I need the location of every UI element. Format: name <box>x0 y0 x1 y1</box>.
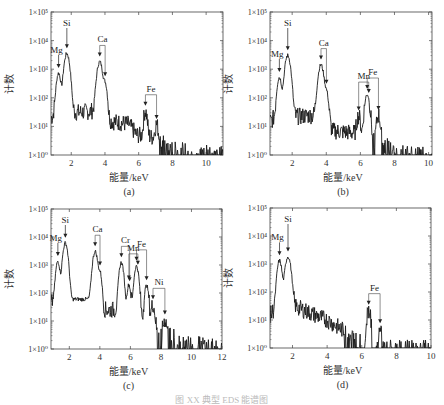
y-axis-label: 计数 <box>222 74 234 94</box>
svg-text:Si: Si <box>63 18 71 28</box>
x-tick-label: 6 <box>360 351 365 361</box>
svg-text:Ca: Ca <box>319 38 329 48</box>
peak-annotation-si: Si <box>284 214 292 251</box>
arrow-icon <box>286 46 290 50</box>
x-axis-label: 能量/keV <box>109 365 149 377</box>
y-tick-label: 1×10⁴ <box>29 233 49 242</box>
peak-annotation-si: Si <box>63 18 71 48</box>
arrow-icon <box>367 301 371 305</box>
svg-text:Fe: Fe <box>368 67 377 77</box>
svg-text:Mg: Mg <box>50 233 63 243</box>
y-tick-label: 1×10⁵ <box>248 8 268 17</box>
svg-text:Ca: Ca <box>93 224 103 234</box>
arrow-icon <box>319 56 323 60</box>
x-axis-label: 能量/keV <box>323 171 363 183</box>
arrow-icon <box>143 102 147 106</box>
arrow-icon <box>278 251 282 255</box>
spectrum-line <box>270 54 432 155</box>
svg-text:Fe: Fe <box>146 84 155 94</box>
arrow-icon <box>56 252 60 256</box>
arrow-icon <box>145 276 149 280</box>
svg-text:Si: Si <box>62 215 70 225</box>
y-tick-label: 1×10⁵ <box>248 204 268 213</box>
y-tick-label: 1×10² <box>29 289 49 298</box>
svg-text:Fe: Fe <box>370 283 379 293</box>
arrow-icon <box>367 89 371 93</box>
svg-text:Mg: Mg <box>271 232 284 242</box>
y-tick-label: 1×10⁰ <box>28 151 48 160</box>
y-tick-label: 1×10³ <box>248 260 268 269</box>
y-tick-label: 1×10⁰ <box>247 151 267 160</box>
chart-panel-a: 1×10⁰1×10¹1×10²1×10³1×10⁴1×10⁵246810能量/k… <box>3 8 223 198</box>
arrow-icon <box>57 64 61 68</box>
y-tick-label: 1×10³ <box>29 261 49 270</box>
y-tick-label: 1×10⁴ <box>248 37 268 46</box>
arrow-icon <box>378 319 382 323</box>
x-tick-label: 2 <box>67 352 72 362</box>
y-tick-label: 1×10¹ <box>248 316 268 325</box>
x-tick-label: 4 <box>98 352 103 362</box>
arrow-icon <box>277 68 281 72</box>
peak-annotation-fe: Fe <box>365 67 380 110</box>
svg-text:Ca: Ca <box>97 34 107 44</box>
peak-annotation-si: Si <box>62 215 70 238</box>
x-axis-label: 能量/keV <box>109 171 149 183</box>
panel-label: (c) <box>123 380 134 392</box>
spectrum-line <box>51 53 223 156</box>
chart-panel-c: 1×10⁰1×10¹1×10²1×10³1×10⁴1×10⁵24681012能量… <box>3 205 227 392</box>
chart-panel-b: 1×10⁰1×10¹1×10²1×10³1×10⁴1×10⁵246810能量/k… <box>222 8 434 198</box>
x-tick-label: 4 <box>103 158 108 168</box>
y-tick-label: 1×10¹ <box>29 122 49 131</box>
arrow-icon <box>103 72 107 76</box>
y-tick-label: 1×10³ <box>29 65 49 74</box>
y-tick-label: 1×10² <box>248 94 268 103</box>
y-tick-label: 1×10⁵ <box>29 8 49 17</box>
svg-text:Si: Si <box>284 18 292 28</box>
y-tick-label: 1×10⁰ <box>28 345 48 354</box>
arrow-icon <box>151 295 155 299</box>
arrow-icon <box>98 52 102 56</box>
y-tick-label: 1×10² <box>248 288 268 297</box>
x-tick-label: 8 <box>394 351 399 361</box>
x-tick-label: 2 <box>290 158 295 168</box>
x-tick-label: 10 <box>427 351 437 361</box>
x-tick-label: 8 <box>159 352 164 362</box>
arrow-icon <box>155 115 159 119</box>
y-tick-label: 1×10⁴ <box>29 37 49 46</box>
x-tick-label: 6 <box>136 158 141 168</box>
plot-frame <box>270 208 431 348</box>
x-tick-label: 2 <box>290 351 295 361</box>
panel-label: (a) <box>123 186 134 198</box>
spectrum-line <box>270 257 431 348</box>
peak-annotation-mg: Mg <box>271 232 284 255</box>
peak-annotation-si: Si <box>284 18 292 50</box>
svg-text:Fe: Fe <box>137 239 146 249</box>
x-tick-label: 8 <box>392 158 397 168</box>
x-tick-label: 10 <box>202 158 212 168</box>
arrow-icon <box>119 253 123 257</box>
x-axis-label: 能量/keV <box>323 364 363 376</box>
y-tick-label: 1×10¹ <box>248 122 268 131</box>
x-tick-label: 4 <box>325 351 330 361</box>
x-tick-label: 4 <box>324 158 329 168</box>
svg-text:Mg: Mg <box>50 45 63 55</box>
figure-caption: 图 XX 典型 EDS 能谱图 <box>0 393 444 405</box>
y-axis-label: 计数 <box>3 74 15 94</box>
eds-spectra-figure: 1×10⁰1×10¹1×10²1×10³1×10⁴1×10⁵246810能量/k… <box>0 0 444 405</box>
x-tick-label: 6 <box>128 352 133 362</box>
svg-text:Si: Si <box>284 214 292 224</box>
x-tick-label: 10 <box>187 352 197 362</box>
y-tick-label: 1×10⁵ <box>29 205 49 214</box>
panel-label: (d) <box>337 379 349 391</box>
arrow-icon <box>63 234 67 238</box>
x-tick-label: 6 <box>358 158 363 168</box>
arrow-icon <box>65 44 69 48</box>
y-tick-label: 1×10² <box>29 94 49 103</box>
y-axis-label: 计数 <box>3 269 15 289</box>
peak-annotation-fe: Fe <box>367 283 382 324</box>
svg-text:Ni: Ni <box>154 277 163 287</box>
svg-text:Mg: Mg <box>271 49 284 59</box>
x-tick-label: 8 <box>170 158 175 168</box>
arrow-icon <box>376 106 380 110</box>
chart-panel-d: 1×10⁰1×10¹1×10²1×10³1×10⁴1×10⁵246810能量/k… <box>222 204 436 391</box>
